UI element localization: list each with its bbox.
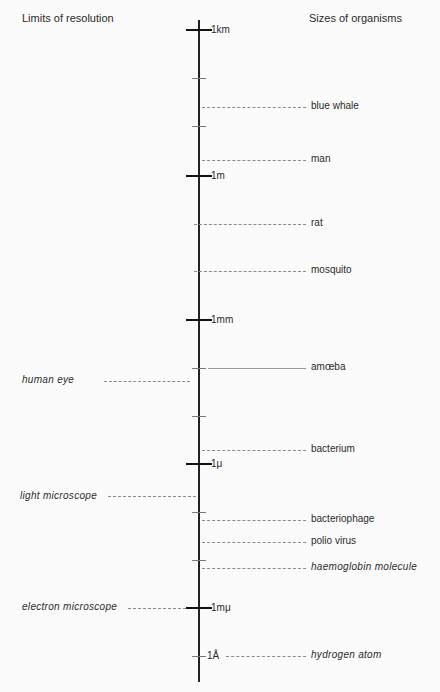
minor-tick	[192, 368, 206, 369]
tick-label-1m: 1m	[211, 170, 225, 181]
organism-rat: rat	[311, 217, 323, 228]
tick-label-1millimicron: 1mμ	[211, 602, 231, 613]
leader-man	[202, 160, 306, 161]
tick-label-1mm: 1mm	[211, 314, 233, 325]
leader-haemoglobin	[202, 568, 306, 569]
tick-1angstrom	[192, 656, 206, 657]
limit-electron-microscope: electron microscope	[22, 601, 117, 612]
tick-1micron	[186, 463, 212, 465]
tick-label-1km: 1km	[211, 24, 230, 35]
minor-tick	[192, 512, 206, 513]
organism-amoeba: amœba	[311, 361, 345, 372]
leader-blue-whale	[202, 107, 306, 108]
leader-bacterium	[202, 450, 306, 451]
leader-rat	[194, 224, 306, 225]
leader-electron-microscope	[128, 608, 186, 609]
tick-1m	[186, 175, 212, 177]
tick-1km	[186, 29, 212, 31]
leader-mosquito	[194, 271, 306, 272]
header-limits-of-resolution: Limits of resolution	[22, 12, 114, 24]
tick-label-1micron: 1μ	[211, 458, 222, 469]
organism-mosquito: mosquito	[311, 264, 352, 275]
limit-light-microscope: light microscope	[20, 490, 97, 501]
minor-tick	[192, 78, 206, 79]
header-sizes-of-organisms: Sizes of organisms	[309, 12, 402, 24]
leader-amoeba	[208, 368, 306, 369]
leader-polio-virus	[202, 542, 306, 543]
organism-bacterium: bacterium	[311, 443, 355, 454]
scale-axis	[198, 20, 200, 682]
leader-light-microscope	[108, 496, 196, 497]
organism-hydrogen-atom: hydrogen atom	[311, 649, 382, 660]
organism-polio-virus: polio virus	[311, 535, 356, 546]
organism-bacteriophage: bacteriophage	[311, 513, 374, 524]
minor-tick	[192, 126, 206, 127]
limit-human-eye: human eye	[22, 374, 74, 385]
organism-man: man	[311, 153, 330, 164]
minor-tick	[192, 416, 206, 417]
leader-bacteriophage	[202, 520, 306, 521]
tick-1mm	[186, 319, 212, 321]
organism-blue-whale: blue whale	[311, 100, 359, 111]
organism-haemoglobin-molecule: haemoglobin molecule	[311, 561, 417, 572]
leader-hydrogen-atom	[226, 656, 306, 657]
tick-1millimicron	[186, 607, 212, 609]
tick-label-1angstrom: 1Å	[207, 650, 219, 661]
leader-human-eye	[104, 381, 190, 382]
minor-tick	[192, 560, 206, 561]
